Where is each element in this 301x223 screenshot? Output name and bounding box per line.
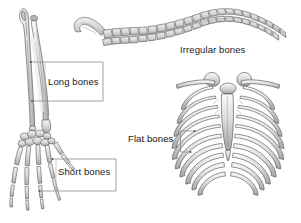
label-long-bones: Long bones <box>48 76 99 87</box>
label-short-bones: Short bones <box>58 166 110 177</box>
label-flat-bones: Flat bones <box>128 133 173 144</box>
label-irregular-bones: Irregular bones <box>180 44 245 55</box>
bone-classification-figure: Long bones Short bones Irregular bones F… <box>0 0 301 223</box>
anatomy-illustration <box>0 0 301 223</box>
